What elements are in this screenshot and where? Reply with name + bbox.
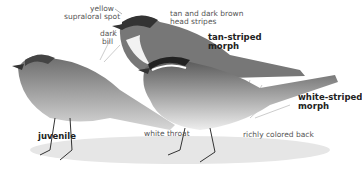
label-tan-striped-morph: morph [208,42,239,51]
label-white-striped-morph: morph [298,102,329,111]
label-bill: bill [102,38,113,46]
label-white-throat: white throat [144,130,190,138]
label-supraloral-spot: supraloral spot [64,13,120,21]
label-juvenile: juvenile [38,132,76,141]
label-head-stripes-2: head stripes [170,18,216,26]
label-richly-colored-back: richly colored back [243,131,314,139]
